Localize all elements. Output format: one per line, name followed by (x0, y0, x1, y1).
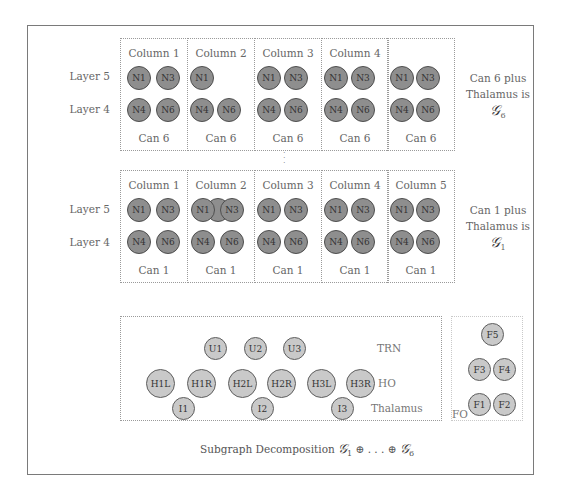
column-footer: Can 1 (121, 264, 187, 276)
column-footer: Can 6 (255, 132, 321, 144)
neuron-node: N3 (416, 198, 440, 222)
fo-node: F2 (493, 393, 516, 416)
column-footer: Can 1 (322, 264, 388, 276)
column-title: Column 4 (322, 179, 388, 191)
column-title: Column 2 (188, 47, 254, 59)
neuron-node: N3 (416, 66, 440, 90)
column-title: Column 4 (322, 47, 388, 59)
ho-node: H1L (146, 369, 175, 398)
column-footer: Can 6 (188, 132, 254, 144)
neuron-node: N1 (127, 198, 151, 222)
note-line-2: Thalamus is (458, 86, 538, 102)
ho-node: H3L (307, 369, 336, 398)
neuron-node: N4 (390, 230, 414, 254)
neuron-node: N4 (324, 230, 348, 254)
column-title: Column 5 (388, 179, 454, 191)
top-column-5: N1 N3 N4 N6 Can 6 (387, 38, 455, 151)
ho-node: H2R (267, 369, 296, 398)
thalamus-label: Thalamus (371, 402, 423, 414)
oplus-symbol: ⊕ (388, 443, 397, 455)
bottom-column-1: Column 1 N1 N3 N4 N6 Can 1 (120, 170, 188, 283)
neuron-node: N6 (284, 230, 308, 254)
neuron-node: N6 (217, 98, 241, 122)
neuron-node: N3 (220, 198, 244, 222)
neuron-node: N3 (156, 66, 180, 90)
column-footer: Can 6 (121, 132, 187, 144)
note-line-2: Thalamus is (458, 218, 538, 234)
column-title: Column 3 (255, 179, 321, 191)
neuron-node: N6 (156, 230, 180, 254)
trn-node: U2 (244, 337, 267, 360)
figure-caption: Subgraph Decomposition 𝒢1 ⊕ . . . ⊕ 𝒢6 (200, 441, 430, 458)
neuron-node: N4 (390, 98, 414, 122)
neuron-node: N4 (257, 230, 281, 254)
column-footer: Can 6 (322, 132, 388, 144)
neuron-node: N4 (324, 98, 348, 122)
neuron-node: N4 (127, 230, 151, 254)
column-title: Column 2 (188, 179, 254, 191)
graph-symbol: 𝒢 (400, 441, 409, 456)
neuron-node: N3 (284, 66, 308, 90)
fo-node: F4 (493, 358, 516, 381)
bottom-column-3: Column 3 N1 N3 N4 N6 Can 1 (254, 170, 322, 283)
neuron-node: N1 (191, 198, 215, 222)
fo-box: F5 F3 F4 F1 F2 (451, 316, 523, 421)
fo-node: F3 (468, 358, 491, 381)
neuron-node: N6 (220, 230, 244, 254)
graph-symbol: 𝒢 (490, 102, 500, 118)
neuron-node: N3 (351, 66, 375, 90)
top-column-4: Column 4 N1 N3 N4 N6 Can 6 (321, 38, 389, 151)
column-footer: Can 1 (188, 264, 254, 276)
column-footer: Can 1 (388, 264, 454, 276)
trn-node: U3 (283, 337, 306, 360)
neuron-node: N3 (156, 198, 180, 222)
column-title: Column 1 (121, 47, 187, 59)
i-node: I3 (331, 397, 354, 420)
top-column-1: Column 1 N1 N3 N4 N6 Can 6 (120, 38, 188, 151)
row-label-layer4-top: Layer 4 (50, 103, 110, 115)
neuron-node: N1 (324, 66, 348, 90)
graph-subscript: 1 (347, 449, 352, 458)
top-column-3: Column 3 N1 N3 N4 N6 Can 6 (254, 38, 322, 151)
bottom-column-2: Column 2 N1 N3 N4 N6 Can 1 (187, 170, 255, 283)
note-line-1: Can 6 plus (458, 70, 538, 86)
column-title: Column 1 (121, 179, 187, 191)
oplus-symbol: ⊕ (356, 443, 365, 455)
bottom-row-note: Can 1 plus Thalamus is 𝒢1 (458, 202, 538, 256)
thalamus-box: U1 U2 U3 TRN H1L H1R H2L H2R H3L H3R HO … (120, 316, 442, 421)
bottom-column-5: Column 5 N1 N3 N4 N6 Can 1 (387, 170, 455, 283)
bottom-column-4: Column 4 N1 N3 N4 N6 Can 1 (321, 170, 389, 283)
graph-subscript: 6 (409, 449, 414, 458)
neuron-node: N1 (390, 66, 414, 90)
neuron-node: N6 (351, 230, 375, 254)
neuron-node: N6 (351, 98, 375, 122)
neuron-node: N1 (190, 66, 214, 90)
neuron-node: N6 (416, 98, 440, 122)
i-node: I2 (251, 397, 274, 420)
caption-text: Subgraph Decomposition (200, 443, 335, 455)
row-label-layer5-bottom: Layer 5 (50, 203, 110, 215)
neuron-node: N3 (284, 198, 308, 222)
neuron-node: N1 (324, 198, 348, 222)
graph-symbol: 𝒢 (490, 234, 500, 250)
graph-symbol: 𝒢 (338, 441, 347, 456)
neuron-node: N4 (127, 98, 151, 122)
neuron-node: N4 (190, 98, 214, 122)
neuron-node: N6 (416, 230, 440, 254)
ho-node: H2L (228, 369, 257, 398)
row-label-layer5-top: Layer 5 (50, 70, 110, 82)
row-label-layer4-bottom: Layer 4 (50, 236, 110, 248)
fo-node: F5 (481, 323, 504, 346)
trn-node: U1 (204, 337, 227, 360)
graph-subscript: 1 (500, 243, 505, 252)
fo-node: F1 (468, 393, 491, 416)
column-footer: Can 1 (255, 264, 321, 276)
ellipsis: . . . (368, 443, 385, 455)
column-footer: Can 6 (388, 132, 454, 144)
neuron-node: N6 (156, 98, 180, 122)
top-column-2: Column 2 N1 N4 N6 Can 6 (187, 38, 255, 151)
neuron-node: N3 (351, 198, 375, 222)
ellipsis-vertical: ··· (283, 150, 285, 165)
ho-node: H1R (187, 369, 216, 398)
ho-node: H3R (346, 369, 375, 398)
